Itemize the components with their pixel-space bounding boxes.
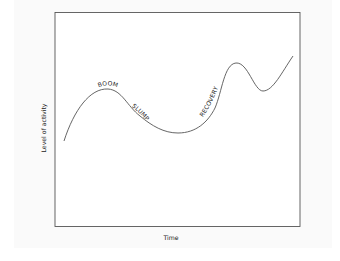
- plot-frame: [55, 13, 300, 227]
- business-cycle-diagram: BOOM SLUMP RECOVERY Time Level of activi…: [0, 0, 340, 261]
- y-axis-label: Level of activity: [40, 103, 48, 152]
- x-axis-label: Time: [162, 234, 178, 241]
